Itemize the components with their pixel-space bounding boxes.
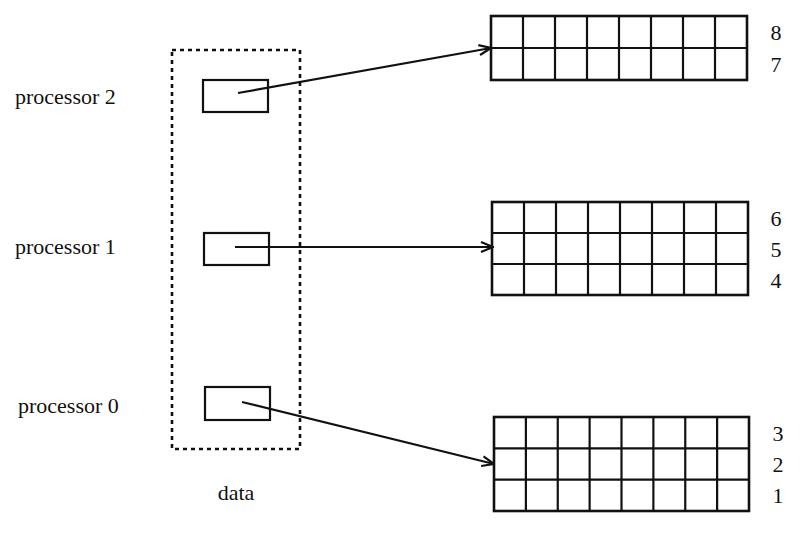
- processor-1: [204, 233, 493, 265]
- processor-1-label: processor 1: [15, 234, 116, 259]
- processor-data-box: [203, 80, 268, 112]
- grid-bottom: 321: [494, 417, 784, 511]
- row-label: 1: [773, 483, 784, 508]
- row-label: 7: [771, 52, 782, 77]
- data-label: data: [218, 480, 255, 505]
- grid-top: 87: [491, 16, 782, 80]
- grids: 87654321: [491, 16, 784, 511]
- processor-2-label: processor 2: [15, 84, 116, 109]
- row-label: 2: [773, 452, 784, 477]
- row-label: 8: [771, 20, 782, 45]
- row-label: 3: [773, 421, 784, 446]
- row-label: 5: [771, 237, 782, 262]
- row-label: 6: [771, 206, 782, 231]
- arrow-icon: [238, 48, 491, 93]
- processors: [203, 48, 494, 464]
- processor-0-label: processor 0: [18, 393, 119, 418]
- distribution-diagram: 87654321 data processor 2 processor 1 pr…: [0, 0, 807, 535]
- processor-2: [203, 48, 491, 112]
- processor-data-box: [204, 233, 269, 265]
- grid-middle: 654: [492, 202, 782, 295]
- processor-data-box: [205, 387, 270, 420]
- processor-0: [205, 387, 494, 464]
- arrow-icon: [242, 402, 494, 464]
- row-label: 4: [771, 268, 782, 293]
